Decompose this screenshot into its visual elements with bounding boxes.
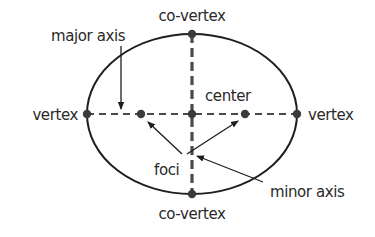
center-label: center (205, 87, 252, 105)
ellipse-diagram: co-vertex co-vertex vertex vertex major … (0, 0, 375, 237)
covertex-bottom-point (188, 190, 196, 198)
vertex-right-label: vertex (308, 106, 354, 124)
foci-arrow-right (187, 121, 238, 154)
covertex-bottom-label: co-vertex (158, 205, 226, 223)
foci-arrow-left (148, 122, 182, 154)
minor-axis-label: minor axis (270, 183, 345, 201)
center-point (188, 110, 196, 118)
covertex-top-label: co-vertex (158, 7, 226, 25)
minor-axis-arrow (197, 156, 263, 182)
focus-left-point (137, 110, 145, 118)
covertex-top-point (188, 30, 196, 38)
vertex-left-point (83, 110, 91, 118)
vertex-right-point (293, 110, 301, 118)
vertex-left-label: vertex (32, 106, 78, 124)
focus-right-point (241, 110, 249, 118)
foci-label: foci (154, 161, 179, 179)
major-axis-label: major axis (51, 27, 126, 45)
